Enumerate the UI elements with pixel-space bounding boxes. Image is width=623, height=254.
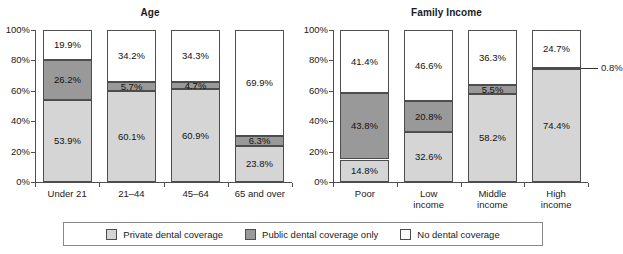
segment-value-label: 20.8% <box>415 112 442 122</box>
segment-value-label: 6.3% <box>249 136 271 146</box>
y-tick <box>31 91 35 92</box>
legend-label-private: Private dental coverage <box>123 229 223 240</box>
y-axis-label: 20% <box>0 146 30 157</box>
bar-income-3: 24.7%0.8%74.4% <box>532 30 581 182</box>
segment-value-label: 23.8% <box>246 159 273 169</box>
bar-segment-private: 74.4% <box>532 69 581 182</box>
segment-value-label: 26.2% <box>54 75 81 85</box>
y-tick <box>31 152 35 153</box>
y-axis-label: 40% <box>0 115 30 126</box>
bar-segment-private: 60.1% <box>107 91 156 182</box>
y-axis-label: 20% <box>295 146 328 157</box>
bar-age-0: 19.9%26.2%53.9% <box>43 30 92 182</box>
legend-item-public: Public dental coverage only <box>245 229 378 240</box>
panel-age: Age100%80%60%40%20%0%19.9%26.2%53.9%Unde… <box>0 0 297 215</box>
legend-swatch-public <box>245 229 256 240</box>
legend-item-none: No dental coverage <box>400 229 499 240</box>
legend-item-private: Private dental coverage <box>106 229 223 240</box>
bar-segment-private: 60.9% <box>171 89 220 182</box>
x-tick <box>99 183 100 187</box>
y-tick <box>31 30 35 31</box>
callout-value-label: 0.8% <box>601 62 623 73</box>
segment-value-label: 74.4% <box>543 121 570 131</box>
chart-legend: Private dental coveragePublic dental cov… <box>63 222 543 246</box>
bar-segment-public: 43.8% <box>340 93 389 160</box>
y-tick <box>329 60 333 61</box>
segment-value-label: 32.6% <box>415 152 442 162</box>
segment-value-label: 34.3% <box>182 51 209 61</box>
segment-value-label: 60.9% <box>182 131 209 141</box>
bar-age-3: 69.9%6.3%23.8% <box>235 30 284 182</box>
callout-leader-line <box>581 68 598 69</box>
x-tick <box>524 183 525 187</box>
y-axis-label: 80% <box>295 54 328 65</box>
bar-segment-public: 5.5% <box>468 85 517 93</box>
y-axis-label: 100% <box>295 24 328 35</box>
bar-segment-public: 5.7% <box>107 82 156 91</box>
panel-title-age: Age <box>0 7 300 18</box>
y-axis-label: 100% <box>0 24 30 35</box>
x-tick <box>164 183 165 187</box>
y-tick <box>31 121 35 122</box>
bar-segment-public: 26.2% <box>43 60 92 100</box>
x-tick <box>292 183 293 187</box>
segment-value-label: 24.7% <box>543 44 570 54</box>
bar-segment-none: 34.3% <box>171 30 220 82</box>
bar-segment-private: 14.8% <box>340 160 389 182</box>
x-tick <box>397 183 398 187</box>
segment-value-label: 58.2% <box>479 133 506 143</box>
y-axis-label: 60% <box>0 85 30 96</box>
x-tick <box>35 183 36 187</box>
segment-value-label: 46.6% <box>415 61 442 71</box>
bar-segment-none: 19.9% <box>43 30 92 60</box>
x-tick <box>333 183 334 187</box>
bar-age-2: 34.3%4.7%60.9% <box>171 30 220 182</box>
legend-label-public: Public dental coverage only <box>262 229 378 240</box>
bar-income-1: 46.6%20.8%32.6% <box>404 30 453 182</box>
legend-label-none: No dental coverage <box>417 229 499 240</box>
x-tick <box>588 183 589 187</box>
segment-value-label: 60.1% <box>118 132 145 142</box>
bar-segment-none: 34.2% <box>107 30 156 82</box>
segment-value-label: 53.9% <box>54 136 81 146</box>
y-tick <box>31 60 35 61</box>
segment-value-label: 5.7% <box>121 82 143 92</box>
y-axis-label: 0% <box>0 176 30 187</box>
y-axis-label: 40% <box>295 115 328 126</box>
segment-value-label: 19.9% <box>54 40 81 50</box>
bar-income-0: 41.4%43.8%14.8% <box>340 30 389 182</box>
y-tick <box>329 121 333 122</box>
bar-segment-public: 4.7% <box>171 82 220 89</box>
segment-value-label: 43.8% <box>351 121 378 131</box>
segment-value-label: 41.4% <box>351 57 378 67</box>
bar-age-1: 34.2%5.7%60.1% <box>107 30 156 182</box>
y-tick <box>329 91 333 92</box>
bar-segment-private: 58.2% <box>468 94 517 182</box>
bar-segment-private: 23.8% <box>235 146 284 182</box>
bar-segment-none: 36.3% <box>468 30 517 85</box>
legend-swatch-private <box>106 229 117 240</box>
x-tick <box>461 183 462 187</box>
y-axis-label: 0% <box>295 176 328 187</box>
x-tick <box>228 183 229 187</box>
y-tick <box>329 30 333 31</box>
segment-value-label: 36.3% <box>479 53 506 63</box>
panel-income: Family Income100%80%60%40%20%0%41.4%43.8… <box>296 0 593 215</box>
bar-segment-public: 20.8% <box>404 101 453 133</box>
y-axis-label: 80% <box>0 54 30 65</box>
bar-segment-public: 6.3% <box>235 136 284 146</box>
bar-segment-private: 32.6% <box>404 132 453 182</box>
y-axis-line-income <box>333 30 334 183</box>
x-axis-category-label: 65 and over <box>222 188 298 199</box>
segment-value-label: 14.8% <box>351 166 378 176</box>
y-axis-label: 60% <box>295 85 328 96</box>
segment-value-label: 69.9% <box>246 78 273 88</box>
x-axis-category-label: Highincome <box>518 188 594 210</box>
y-axis-line-age <box>35 30 36 183</box>
bar-segment-private: 53.9% <box>43 100 92 182</box>
bar-segment-none: 46.6% <box>404 30 453 101</box>
panel-title-income: Family Income <box>298 7 595 18</box>
y-tick <box>329 152 333 153</box>
bar-segment-none: 24.7% <box>532 30 581 68</box>
